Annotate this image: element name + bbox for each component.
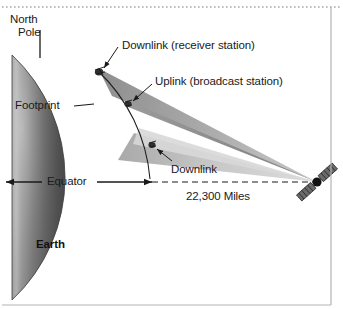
label-distance-miles: 22,300 Miles [186, 190, 250, 203]
leader-footprint [74, 104, 94, 106]
label-earth: Earth [36, 238, 65, 251]
label-equator: Equator [47, 175, 87, 188]
diagram-canvas: North Pole Downlink (receiver station) U… [0, 0, 343, 309]
label-downlink-receiver-station: Downlink (receiver station) [122, 39, 255, 52]
label-uplink-broadcast-station: Uplink (broadcast station) [155, 75, 283, 88]
label-north-pole-line2: Pole [18, 26, 41, 39]
label-footprint: Footprint [15, 99, 59, 112]
label-north-pole-line1: North [10, 13, 38, 26]
leader-downlink-receiver [104, 47, 118, 68]
label-downlink: Downlink [171, 163, 217, 176]
